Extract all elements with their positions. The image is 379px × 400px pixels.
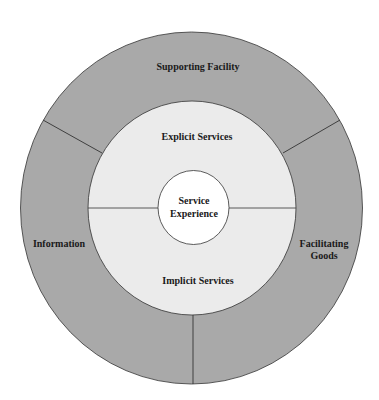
label-explicit-services: Explicit Services [162,131,233,142]
label-experience: Experience [170,208,218,219]
label-implicit-services: Implicit Services [162,275,233,286]
service-package-diagram: Supporting Facility Information Facilita… [0,0,379,400]
label-information: Information [33,238,86,249]
label-goods: Goods [310,250,337,261]
label-service: Service [178,195,210,206]
label-supporting-facility: Supporting Facility [156,61,239,72]
label-facilitating: Facilitating [300,238,349,249]
